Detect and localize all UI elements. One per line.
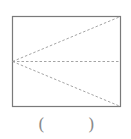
answer-bracket: ( )	[0, 112, 131, 139]
dashed-line-to-bottom-right	[13, 62, 121, 107]
geometry-diagram	[0, 0, 131, 112]
rectangle-figure	[0, 0, 131, 112]
open-parenthesis: (	[38, 114, 45, 134]
dashed-line-to-top-right	[13, 17, 121, 62]
close-parenthesis: )	[88, 114, 95, 134]
